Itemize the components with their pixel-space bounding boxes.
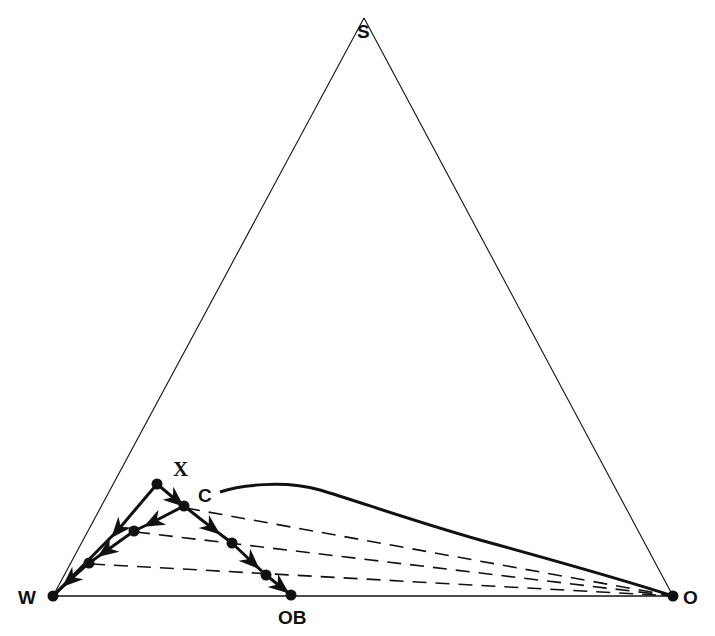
edge-s-w xyxy=(53,18,364,596)
label-ob: OB xyxy=(278,607,307,628)
point-o xyxy=(668,591,679,602)
point-w xyxy=(48,591,59,602)
tie-lines xyxy=(91,508,673,596)
triangle-outline xyxy=(53,18,673,596)
tie-line-c-o xyxy=(186,508,673,596)
point-c xyxy=(179,501,190,512)
points xyxy=(48,479,679,602)
binodal-curve xyxy=(220,484,673,596)
label-o: O xyxy=(683,587,698,608)
point-r1 xyxy=(129,526,140,537)
label-c: C xyxy=(198,485,212,506)
point-x xyxy=(152,479,163,490)
point-e2 xyxy=(261,570,272,581)
tie-line-r1-o xyxy=(136,532,673,596)
flow-paths xyxy=(53,484,291,596)
label-s: S xyxy=(357,21,370,42)
label-w: W xyxy=(18,587,36,608)
point-e1 xyxy=(227,538,238,549)
point-r2 xyxy=(84,558,95,569)
edge-s-o xyxy=(364,18,673,596)
ternary-diagram: S W O X C OB xyxy=(0,0,715,636)
point-ob xyxy=(286,590,297,601)
label-x: X xyxy=(173,457,188,481)
